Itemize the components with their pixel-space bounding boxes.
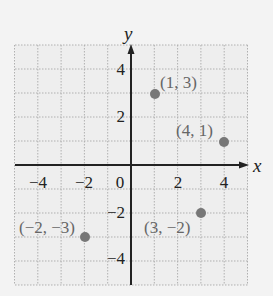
y-tick: −4 [107,249,126,268]
x-axis-label: x [252,155,262,176]
point-label: (4, 1) [176,121,213,140]
y-tick: 2 [117,107,126,126]
y-tick: −2 [107,203,125,222]
point-label: (−2, −3) [19,218,75,237]
data-point [80,232,90,242]
y-tick: 4 [117,60,126,79]
data-point [219,137,229,147]
x-tick: −2 [75,173,93,192]
y-axis-label: y [122,23,133,44]
data-point [150,89,160,99]
point-label: (3, −2) [144,218,190,237]
x-tick: 2 [174,173,183,192]
x-tick: −4 [29,173,48,192]
x-tick: 0 [116,173,125,192]
x-tick: 4 [220,173,229,192]
coordinate-plane: y x −4 −2 0 2 4 4 2 −2 −4 (1, 3) (4, 1) … [0,0,273,296]
data-point [196,208,206,218]
point-label: (1, 3) [160,73,197,92]
